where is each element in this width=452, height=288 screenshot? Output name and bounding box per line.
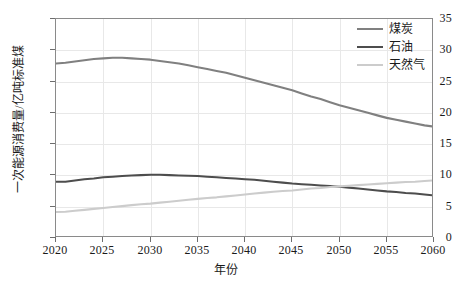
x-axis-tick-mark: [55, 237, 56, 242]
x-axis-tick-label: 2030: [123, 244, 177, 256]
x-axis-tick-mark: [386, 237, 387, 242]
x-axis-tick-label: 2040: [217, 244, 271, 256]
legend-item[interactable]: 天然气: [357, 56, 431, 74]
legend-item[interactable]: 煤炭: [357, 20, 431, 38]
legend-line-swatch: [357, 64, 383, 66]
x-axis-tick-label: 2035: [170, 244, 224, 256]
x-axis-tick-mark: [339, 237, 340, 242]
x-axis-tick-mark: [102, 237, 103, 242]
legend-line-swatch: [357, 28, 383, 30]
legend-line-swatch: [357, 46, 383, 48]
series-line: [56, 180, 433, 212]
legend-item[interactable]: 石油: [357, 38, 431, 56]
x-axis-tick-label: 2025: [75, 244, 129, 256]
x-axis-tick-mark: [197, 237, 198, 242]
x-axis-title: 年份: [0, 263, 452, 277]
x-axis-tick-mark: [150, 237, 151, 242]
chart-legend: 煤炭石油天然气: [357, 20, 431, 74]
x-axis-tick-label: 2060: [406, 244, 452, 256]
x-axis-tick-mark: [291, 237, 292, 242]
x-axis-tick-mark: [244, 237, 245, 242]
y-axis-title: 一次能源消费量/亿吨标准煤: [12, 4, 26, 234]
series-line: [56, 175, 433, 196]
x-axis-tick-mark: [433, 237, 434, 242]
legend-item-label: 天然气: [389, 59, 425, 72]
x-axis-tick-label: 2055: [359, 244, 413, 256]
chart-figure: 05101520253035 2020202520302035204020452…: [0, 0, 452, 288]
x-axis-tick-label: 2050: [312, 244, 366, 256]
legend-item-label: 石油: [389, 41, 413, 54]
x-axis-tick-label: 2020: [28, 244, 82, 256]
legend-item-label: 煤炭: [389, 23, 413, 36]
x-axis-tick-label: 2045: [264, 244, 318, 256]
